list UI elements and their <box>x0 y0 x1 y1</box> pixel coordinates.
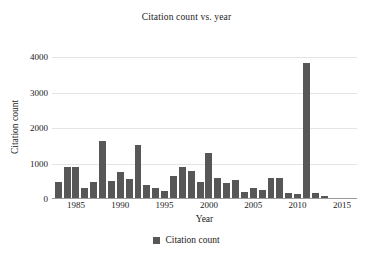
y-axis-ticks: 01000200030004000 <box>0 0 48 258</box>
legend-label: Citation count <box>165 235 219 245</box>
y-tick-label: 3000 <box>4 88 48 98</box>
x-tick-label: 1990 <box>111 200 129 210</box>
bar <box>55 182 62 199</box>
bar <box>64 167 71 199</box>
x-tick-label: 1995 <box>156 200 174 210</box>
gridline <box>52 57 357 58</box>
legend-swatch-icon <box>153 237 160 244</box>
plot-area <box>52 50 357 199</box>
chart-title: Citation count vs. year <box>0 12 373 22</box>
bar <box>170 176 177 199</box>
y-tick-label: 1000 <box>4 159 48 169</box>
bar <box>223 183 230 199</box>
x-axis-ticks: 1985199019952000200520102015 <box>52 200 357 214</box>
bar <box>268 178 275 199</box>
chart-legend: Citation count <box>0 235 373 245</box>
x-axis-line <box>52 198 357 199</box>
bar <box>126 179 133 199</box>
bar <box>108 181 115 199</box>
x-tick-label: 2000 <box>200 200 218 210</box>
x-tick-label: 2005 <box>244 200 262 210</box>
bar <box>179 167 186 199</box>
bar <box>143 185 150 199</box>
citation-count-chart: Citation count vs. year Citation count 0… <box>0 0 373 258</box>
x-axis-label: Year <box>52 214 357 224</box>
x-tick-label: 2010 <box>289 200 307 210</box>
bar <box>117 172 124 199</box>
y-tick-label: 2000 <box>4 123 48 133</box>
bar <box>135 145 142 199</box>
x-tick-label: 2015 <box>333 200 351 210</box>
bar <box>205 153 212 199</box>
bar <box>214 178 221 199</box>
gridline <box>52 93 357 94</box>
bar <box>303 63 310 199</box>
x-tick-label: 1985 <box>67 200 85 210</box>
bar <box>276 178 283 199</box>
bar <box>232 180 239 199</box>
bar <box>188 171 195 199</box>
bar <box>197 182 204 199</box>
y-tick-label: 4000 <box>4 52 48 62</box>
bar <box>99 141 106 199</box>
bar <box>72 167 79 199</box>
bar <box>90 182 97 199</box>
y-tick-label: 0 <box>4 194 48 204</box>
gridline <box>52 128 357 129</box>
